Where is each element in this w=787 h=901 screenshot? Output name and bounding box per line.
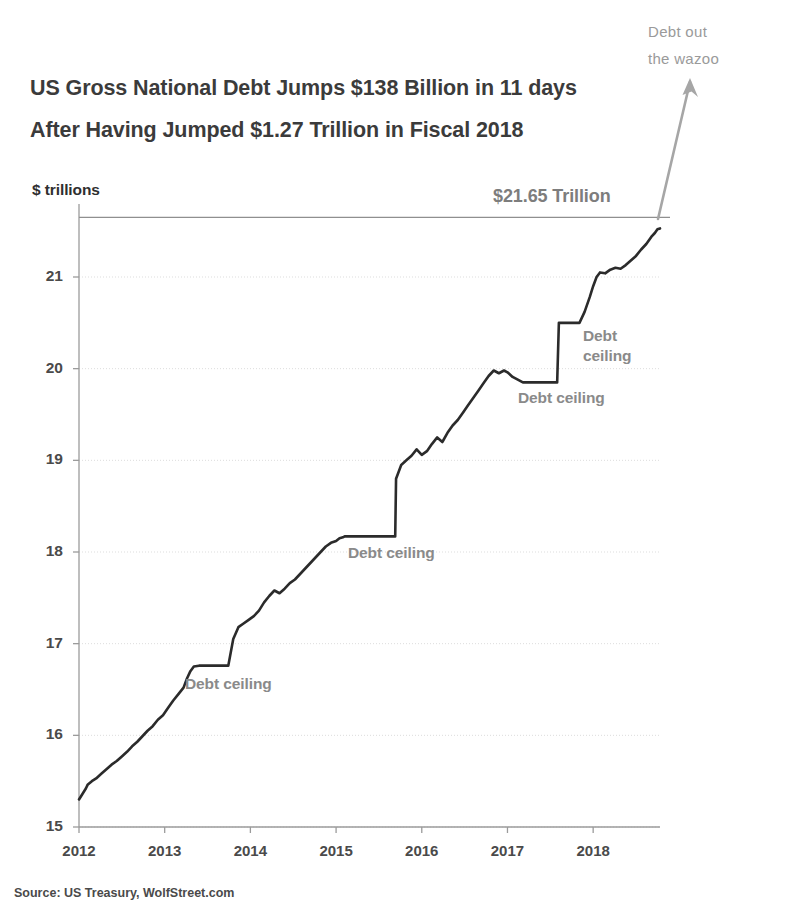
tick-marks [73,277,593,833]
chart-page: US Gross National Debt Jumps $138 Billio… [0,0,787,901]
y-tick-label-20: 20 [23,359,63,377]
annotation-debt-ceiling-1: Debt ceiling [185,674,272,694]
annotation-total-debt: $21.65 Trillion [493,186,611,206]
x-tick-label-2014: 2014 [220,842,280,859]
axis-lines [79,204,660,827]
annotation-debt-ceiling-4: Debt ceiling [583,326,653,366]
x-tick-label-2016: 2016 [392,842,452,859]
wazoo-arrow-icon [658,78,698,219]
annotation-debt-ceiling-3: Debt ceiling [518,388,605,408]
x-tick-label-2012: 2012 [49,842,109,859]
x-tick-label-2015: 2015 [306,842,366,859]
debt-series-line [79,228,660,799]
y-tick-label-15: 15 [23,817,63,835]
x-tick-label-2013: 2013 [135,842,195,859]
annotation-debt-ceiling-2: Debt ceiling [348,543,435,563]
y-tick-label-18: 18 [23,542,63,560]
y-tick-label-21: 21 [23,267,63,285]
y-tick-label-17: 17 [23,634,63,652]
x-tick-label-2017: 2017 [477,842,537,859]
debt-line-chart [0,0,787,901]
y-tick-label-16: 16 [23,725,63,743]
x-tick-label-2018: 2018 [563,842,623,859]
y-tick-label-19: 19 [23,450,63,468]
source-note: Source: US Treasury, WolfStreet.com [14,886,234,900]
